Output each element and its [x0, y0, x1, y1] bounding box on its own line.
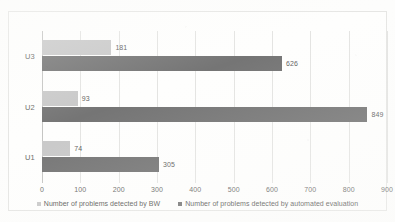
x-tick-label-500: 500	[228, 186, 240, 193]
bar-value-u3-bw: 181	[115, 44, 127, 51]
bar-group-u3-bw[interactable]: 181	[42, 40, 127, 55]
x-tick-label-400: 400	[189, 186, 201, 193]
legend-item-0[interactable]: Number of problems detected by BW	[37, 200, 160, 207]
bar-value-u1-automated: 305	[163, 161, 175, 168]
category-label-u2: U2	[25, 102, 35, 111]
x-axis: 0100200300400500600700800900	[42, 183, 387, 197]
bar-group-u2-bw[interactable]: 93	[42, 91, 90, 106]
bar-row-u1: U174305	[42, 132, 387, 183]
bar-rows: U3181626U293849U174305	[42, 31, 387, 183]
bar-u2-bw[interactable]	[42, 91, 78, 106]
chart-legend: Number of problems detected by BWNumber …	[9, 200, 386, 207]
x-tick-label-800: 800	[343, 186, 355, 193]
bar-u3-automated[interactable]	[42, 56, 282, 71]
bar-group-u1-bw[interactable]: 74	[42, 141, 82, 156]
x-tick-label-900: 900	[381, 186, 393, 193]
x-tick-label-200: 200	[113, 186, 125, 193]
category-label-u1: U1	[25, 153, 35, 162]
bar-u3-bw[interactable]	[42, 40, 111, 55]
bar-row-u2: U293849	[42, 82, 387, 133]
bar-group-u2-automated[interactable]: 849	[42, 107, 383, 122]
legend-item-1[interactable]: Number of problems detected by automated…	[178, 200, 358, 207]
chart-frame: U3181626U293849U174305 01002003004005006…	[8, 11, 387, 211]
category-label-u3: U3	[25, 52, 35, 61]
bar-u1-automated[interactable]	[42, 157, 159, 172]
legend-swatch-icon-1	[178, 202, 182, 206]
plot-area: U3181626U293849U174305	[42, 31, 387, 183]
bar-group-u1-automated[interactable]: 305	[42, 157, 175, 172]
legend-swatch-icon-0	[37, 202, 41, 206]
bar-group-u3-automated[interactable]: 626	[42, 56, 298, 71]
legend-label-0: Number of problems detected by BW	[44, 200, 160, 207]
bar-row-u3: U3181626	[42, 31, 387, 82]
legend-label-1: Number of problems detected by automated…	[185, 200, 358, 207]
bar-u1-bw[interactable]	[42, 141, 70, 156]
x-tick-label-0: 0	[40, 186, 44, 193]
x-tick-label-600: 600	[266, 186, 278, 193]
gridline-900	[387, 31, 388, 183]
x-tick-label-100: 100	[74, 186, 86, 193]
bar-value-u2-bw: 93	[82, 95, 90, 102]
bar-u2-automated[interactable]	[42, 107, 367, 122]
bar-value-u1-bw: 74	[74, 145, 82, 152]
x-tick-label-700: 700	[304, 186, 316, 193]
bar-value-u3-automated: 626	[286, 60, 298, 67]
x-tick-label-300: 300	[151, 186, 163, 193]
bar-value-u2-automated: 849	[371, 111, 383, 118]
